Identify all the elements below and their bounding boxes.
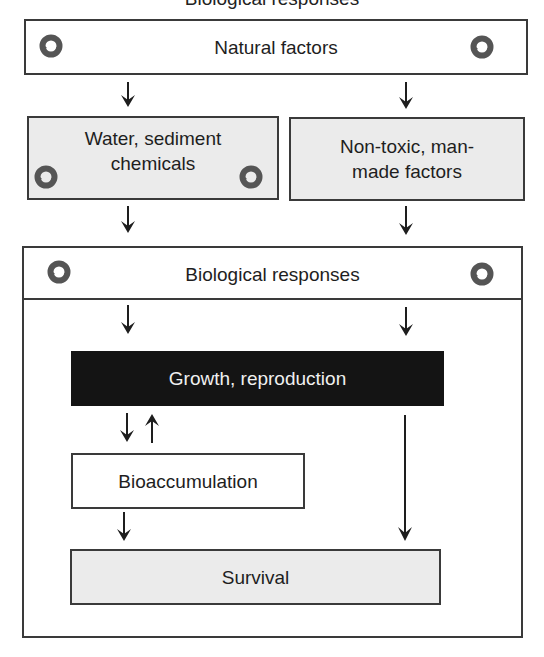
- down-arrow-icon: [398, 82, 414, 110]
- diagram-caption: Biological responses: [0, 0, 544, 10]
- down-arrow-icon: [120, 305, 136, 335]
- down-arrow-icon: [120, 206, 136, 234]
- water-sediment-line2: chemicals: [111, 151, 195, 176]
- growth-reproduction-box: Growth, reproduction: [71, 351, 444, 406]
- growth-reproduction-label: Growth, reproduction: [169, 366, 346, 391]
- down-arrow-icon: [398, 307, 414, 337]
- recycle-cycle-icon: [470, 35, 494, 59]
- water-sediment-line1: Water, sediment: [85, 126, 222, 151]
- down-arrow-icon: [120, 82, 136, 108]
- down-arrow-icon: [119, 413, 135, 443]
- natural-factors-box: Natural factors: [24, 19, 528, 75]
- recycle-cycle-icon: [470, 262, 494, 286]
- header-divider: [22, 298, 523, 300]
- recycle-cycle-icon: [47, 260, 71, 284]
- survival-box: Survival: [70, 549, 441, 605]
- natural-factors-label: Natural factors: [214, 35, 338, 60]
- recycle-cycle-icon: [39, 34, 63, 58]
- non-toxic-line1: Non-toxic, man-: [340, 134, 474, 159]
- down-arrow-icon: [397, 415, 413, 542]
- biological-responses-label: Biological responses: [22, 264, 523, 286]
- up-arrow-icon: [144, 413, 160, 443]
- bioaccumulation-label: Bioaccumulation: [118, 469, 257, 494]
- recycle-cycle-icon: [34, 165, 58, 189]
- bioaccumulation-box: Bioaccumulation: [71, 453, 305, 509]
- non-toxic-line2: made factors: [352, 159, 462, 184]
- non-toxic-man-made-factors-box: Non-toxic, man- made factors: [289, 117, 525, 201]
- survival-label: Survival: [222, 565, 290, 590]
- recycle-cycle-icon: [239, 165, 263, 189]
- down-arrow-icon: [398, 206, 414, 236]
- down-arrow-icon: [116, 512, 132, 542]
